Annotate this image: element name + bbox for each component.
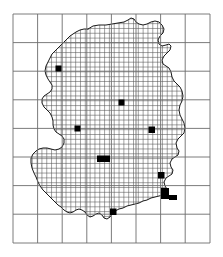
marker-southeast-cluster-tail — [169, 195, 177, 200]
marker-south — [110, 209, 117, 216]
marker-southeast-cluster-main — [161, 188, 169, 199]
dot-density-map-figure — [0, 0, 223, 257]
marker-northwest — [56, 66, 62, 72]
map-canvas — [0, 0, 223, 257]
marker-center — [119, 100, 125, 106]
marker-southeast — [158, 172, 165, 179]
marker-east — [149, 127, 156, 134]
marker-southcenter-wide — [97, 156, 110, 163]
marker-west — [75, 126, 81, 132]
